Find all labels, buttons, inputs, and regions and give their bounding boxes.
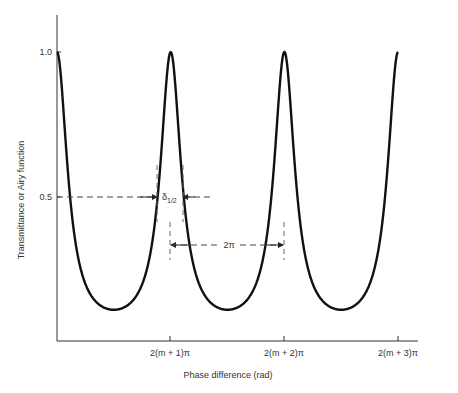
y-tick-05: 0.5 bbox=[39, 192, 52, 202]
x-axis-label: Phase difference (rad) bbox=[184, 370, 273, 380]
airy-curve bbox=[57, 52, 398, 310]
fwhm-label: δ1/2 bbox=[162, 192, 177, 204]
x-tick-2: 2(m + 2)π bbox=[264, 348, 304, 358]
x-tick-3: 2(m + 3)π bbox=[378, 348, 418, 358]
y-axis-label: Transmittance or Airy function bbox=[16, 141, 26, 260]
airy-function-chart: 1.0 0.5 2(m + 1)π 2(m + 2)π 2(m + 3)π Ph… bbox=[0, 0, 458, 393]
x-tick-1: 2(m + 1)π bbox=[150, 348, 190, 358]
fsr-label: 2π bbox=[223, 240, 234, 250]
y-tick-1: 1.0 bbox=[39, 47, 52, 57]
